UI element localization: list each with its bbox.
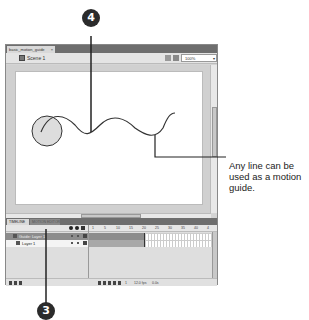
callout-caption: Any line can be used as a motion guide. xyxy=(229,160,309,193)
circle-shape xyxy=(32,116,62,146)
callout-badge-4: 4 xyxy=(82,9,100,27)
callout-line-caption xyxy=(155,135,226,157)
callout-badge-3: 3 xyxy=(37,302,55,320)
